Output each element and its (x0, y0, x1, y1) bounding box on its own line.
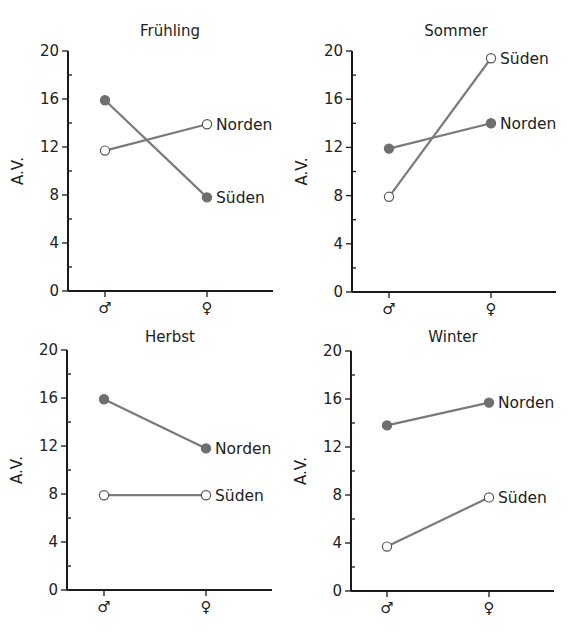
series-line-norden (104, 399, 206, 448)
y-tick-label: 12 (40, 138, 59, 156)
y-tick-label: 8 (48, 485, 58, 503)
series-label-norden: Norden (215, 440, 271, 458)
series-label-süden: Süden (498, 489, 547, 507)
female-symbol-icon: ♀ (486, 300, 497, 318)
y-tick-label: 0 (48, 581, 58, 599)
female-symbol-icon: ♀ (202, 299, 213, 317)
y-tick-label: 4 (48, 533, 58, 551)
y-tick-label: 0 (49, 282, 59, 300)
y-tick-label: 8 (332, 486, 342, 504)
panel-sommer: SommerA.V.048121620♂♀SüdenNorden (293, 22, 556, 318)
filled-marker-icon (202, 193, 211, 202)
open-marker-icon (100, 146, 109, 155)
panel-frühling: FrühlingA.V.048121620♂♀NordenSüden (9, 22, 273, 317)
y-tick-label: 4 (49, 234, 59, 252)
y-tick-label: 12 (39, 437, 58, 455)
panel-winter: WinterA.V.048121620♂♀NordenSüden (292, 328, 554, 617)
y-tick-label: 12 (324, 138, 343, 156)
y-tick-label: 8 (333, 187, 343, 205)
open-marker-icon (99, 491, 108, 500)
open-marker-icon (202, 120, 211, 129)
male-symbol-icon: ♂ (380, 599, 393, 617)
panel-title: Sommer (424, 22, 488, 40)
filled-marker-icon (382, 421, 391, 430)
filled-marker-icon (99, 395, 108, 404)
y-tick-label: 8 (49, 186, 59, 204)
y-axis-label: A.V. (9, 157, 27, 185)
filled-marker-icon (486, 119, 495, 128)
series-label-norden: Norden (216, 116, 272, 134)
series-label-süden: Süden (500, 50, 549, 68)
y-tick-label: 16 (323, 390, 342, 408)
female-symbol-icon: ♀ (484, 599, 495, 617)
series-label-süden: Süden (215, 487, 264, 505)
y-tick-label: 12 (323, 438, 342, 456)
y-tick-label: 16 (324, 90, 343, 108)
open-marker-icon (201, 491, 210, 500)
filled-marker-icon (384, 144, 393, 153)
y-tick-label: 20 (323, 342, 342, 360)
female-symbol-icon: ♀ (201, 598, 212, 616)
male-symbol-icon: ♂ (97, 598, 110, 616)
y-axis-label: A.V. (292, 457, 310, 485)
panel-title: Frühling (140, 22, 200, 40)
series-line-norden (387, 403, 489, 426)
y-tick-label: 16 (40, 90, 59, 108)
series-line-norden (105, 124, 207, 150)
open-marker-icon (486, 54, 495, 63)
male-symbol-icon: ♂ (98, 299, 111, 317)
y-tick-label: 4 (332, 534, 342, 552)
y-tick-label: 20 (324, 42, 343, 60)
filled-marker-icon (201, 444, 210, 453)
series-label-süden: Süden (216, 189, 265, 207)
y-tick-label: 0 (333, 283, 343, 301)
y-axis-label: A.V. (8, 456, 26, 484)
filled-marker-icon (100, 96, 109, 105)
open-marker-icon (384, 192, 393, 201)
seasonal-panels-chart: FrühlingA.V.048121620♂♀NordenSüdenSommer… (0, 0, 578, 643)
panel-title: Winter (428, 328, 478, 346)
male-symbol-icon: ♂ (382, 300, 395, 318)
series-label-norden: Norden (498, 394, 554, 412)
panel-herbst: HerbstA.V.048121620♂♀NordenSüden (8, 328, 272, 616)
series-line-süden (105, 100, 207, 197)
open-marker-icon (382, 542, 391, 551)
series-line-süden (387, 497, 489, 546)
y-axis-label: A.V. (293, 158, 311, 186)
filled-marker-icon (484, 398, 493, 407)
y-tick-label: 4 (333, 235, 343, 253)
y-tick-label: 0 (332, 582, 342, 600)
y-tick-label: 16 (39, 389, 58, 407)
series-label-norden: Norden (500, 115, 556, 133)
open-marker-icon (484, 493, 493, 502)
y-tick-label: 20 (39, 341, 58, 359)
panel-title: Herbst (145, 328, 195, 346)
y-tick-label: 20 (40, 42, 59, 60)
